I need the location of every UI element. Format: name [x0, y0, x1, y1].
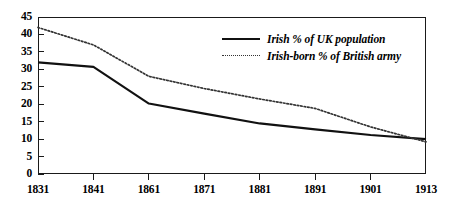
legend-label-solid: Irish % of UK population	[267, 33, 385, 45]
y-tick-mark	[38, 69, 44, 70]
x-tick-label: 1891	[285, 184, 345, 196]
y-tick-mark	[38, 121, 44, 122]
y-tick-label: 15	[0, 116, 32, 128]
y-tick-mark	[38, 174, 44, 175]
x-tick-mark	[148, 174, 149, 180]
y-tick-mark	[38, 86, 44, 87]
y-tick-mark	[38, 104, 44, 105]
legend-item-solid: Irish % of UK population	[222, 30, 422, 47]
x-tick-mark	[370, 174, 371, 180]
x-tick-label: 1871	[174, 184, 234, 196]
y-tick-label: 40	[0, 28, 32, 40]
y-tick-label: 5	[0, 151, 32, 163]
x-tick-label: 1881	[230, 184, 290, 196]
y-tick-mark	[38, 51, 44, 52]
y-tick-label: 25	[0, 81, 32, 93]
x-tick-label: 1901	[341, 184, 401, 196]
x-tick-mark	[259, 174, 260, 180]
y-tick-label: 20	[0, 98, 32, 110]
y-tick-mark	[38, 34, 44, 35]
x-tick-label: 1861	[119, 184, 179, 196]
x-tick-mark	[315, 174, 316, 180]
y-tick-label: 35	[0, 46, 32, 58]
y-tick-mark	[38, 156, 44, 157]
line-chart: Irish % of UK population Irish-born % of…	[0, 0, 452, 210]
legend-label-dotted: Irish-born % of British army	[267, 50, 401, 62]
y-tick-label: 30	[0, 63, 32, 75]
y-tick-label: 0	[0, 168, 32, 180]
x-tick-label: 1913	[396, 184, 452, 196]
legend-line-solid-icon	[222, 34, 260, 44]
legend-line-dotted-icon	[222, 51, 260, 61]
series-line-solid	[38, 62, 426, 139]
x-tick-label: 1831	[8, 184, 68, 196]
y-tick-mark	[38, 17, 44, 18]
y-tick-mark	[38, 139, 44, 140]
legend-item-dotted: Irish-born % of British army	[222, 47, 422, 64]
chart-legend: Irish % of UK population Irish-born % of…	[222, 30, 422, 64]
x-tick-mark	[204, 174, 205, 180]
x-tick-label: 1841	[63, 184, 123, 196]
x-tick-mark	[93, 174, 94, 180]
y-tick-label: 10	[0, 133, 32, 145]
y-tick-label: 45	[0, 11, 32, 23]
